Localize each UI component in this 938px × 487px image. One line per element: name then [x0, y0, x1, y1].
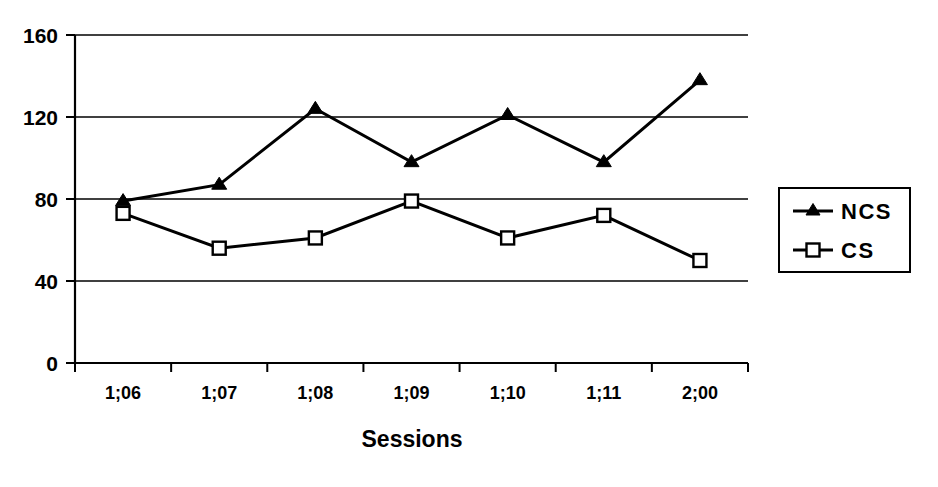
- x-axis-title: Sessions: [362, 426, 463, 452]
- series-line-ncs: [123, 80, 700, 201]
- y-tick-label-80: 80: [35, 188, 58, 211]
- data-point-cs-1;09: [405, 195, 418, 208]
- data-point-cs-1;10: [501, 231, 514, 244]
- data-point-cs-1;08: [309, 231, 322, 244]
- data-point-ncs-1;10: [500, 108, 515, 120]
- line-chart: 160 120 80 40 0 1;061;071;081;091;101;11…: [0, 0, 938, 487]
- x-tick-label-1;10: 1;10: [490, 383, 526, 403]
- legend-marker-cs-square-icon: [807, 244, 820, 257]
- y-tick-label-160: 160: [23, 24, 58, 47]
- series-markers-cs: [117, 195, 707, 267]
- legend-marker-ncs-triangle-icon: [806, 204, 820, 216]
- y-tick-label-0: 0: [46, 352, 58, 375]
- data-point-ncs-2;00: [692, 73, 707, 85]
- series-line-cs: [123, 201, 700, 260]
- legend-label-cs: CS: [841, 238, 875, 263]
- x-tick-label-1;06: 1;06: [105, 383, 141, 403]
- data-point-cs-1;06: [117, 207, 130, 220]
- x-axis-tick-labels: 1;061;071;081;091;101;112;00: [105, 383, 718, 403]
- data-point-cs-1;11: [597, 209, 610, 222]
- legend-label-ncs: NCS: [841, 199, 892, 224]
- data-point-cs-2;00: [693, 254, 706, 267]
- x-tick-label-2;00: 2;00: [682, 383, 718, 403]
- y-axis-ticks: [66, 35, 75, 363]
- data-point-ncs-1;08: [308, 101, 323, 113]
- y-tick-label-120: 120: [23, 106, 58, 129]
- data-point-cs-1;07: [213, 242, 226, 255]
- x-axis-ticks: [75, 363, 748, 372]
- x-tick-label-1;11: 1;11: [586, 383, 621, 403]
- x-tick-label-1;08: 1;08: [297, 383, 333, 403]
- legend: NCS CS: [779, 188, 910, 272]
- y-axis-tick-labels: 160 120 80 40 0: [23, 24, 58, 375]
- y-tick-label-40: 40: [35, 270, 58, 293]
- x-tick-label-1;09: 1;09: [393, 383, 429, 403]
- x-tick-label-1;07: 1;07: [201, 383, 237, 403]
